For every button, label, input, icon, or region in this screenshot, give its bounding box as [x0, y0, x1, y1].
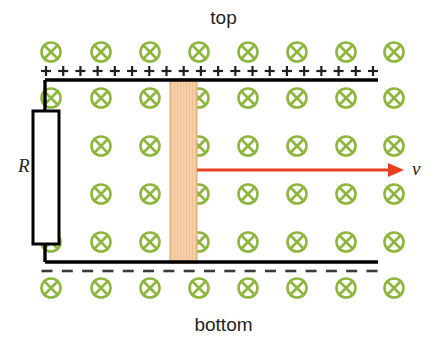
positive-charge-sign: [351, 66, 361, 76]
resistor-label: R: [18, 155, 30, 177]
bottom-rail-label: bottom: [0, 314, 447, 336]
magnetic-field-into-page-icon: [141, 89, 160, 108]
sliding-conducting-rod: [170, 79, 197, 263]
magnetic-field-into-page-icon: [92, 279, 111, 298]
magnetic-field-into-page-icon: [337, 279, 356, 298]
magnetic-field-into-page-icon: [42, 279, 61, 298]
arrow-head-icon: [388, 163, 404, 177]
positive-charge-sign: [144, 66, 154, 76]
magnetic-field-into-page-icon: [141, 279, 160, 298]
magnetic-field-into-page-icon: [385, 89, 404, 108]
magnetic-field-into-page-icon: [385, 43, 404, 62]
velocity-arrow: [197, 163, 404, 177]
magnetic-field-into-page-icon: [239, 279, 258, 298]
magnetic-field-into-page-icon: [92, 89, 111, 108]
top-rail-label: top: [0, 7, 447, 29]
magnetic-field-into-page-icon: [239, 233, 258, 252]
positive-charge-sign: [248, 66, 258, 76]
magnetic-field-into-page-icon: [239, 43, 258, 62]
magnetic-field-into-page-icon: [141, 43, 160, 62]
magnetic-field-into-page-icon: [190, 279, 209, 298]
positive-charge-sign: [299, 66, 309, 76]
magnetic-field-into-page-icon: [337, 137, 356, 156]
magnetic-field-into-page-icon: [337, 185, 356, 204]
magnetic-field-into-page-icon: [288, 43, 307, 62]
faraday-law-sliding-rod-diagram: top bottom R v: [0, 0, 447, 343]
positive-charge-sign: [368, 66, 378, 76]
magnetic-field-into-page-icon: [141, 233, 160, 252]
resistor-body: [33, 111, 59, 244]
magnetic-field-into-page-icon: [92, 137, 111, 156]
positive-charge-sign: [41, 66, 51, 76]
magnetic-field-into-page-icon: [288, 185, 307, 204]
positive-charge-sign: [334, 66, 344, 76]
magnetic-field-into-page-icon: [42, 43, 61, 62]
positive-charge-sign: [196, 66, 206, 76]
magnetic-field-into-page-icon: [141, 137, 160, 156]
magnetic-field-into-page-icon: [190, 43, 209, 62]
positive-charge-sign: [179, 66, 189, 76]
magnetic-field-into-page-icon: [337, 233, 356, 252]
positive-charge-sign: [127, 66, 137, 76]
positive-charge-sign: [213, 66, 223, 76]
positive-charge-sign: [75, 66, 85, 76]
magnetic-field-into-page-icon: [288, 279, 307, 298]
magnetic-field-into-page-icon: [385, 233, 404, 252]
magnetic-field-into-page-icon: [239, 137, 258, 156]
magnetic-field-into-page-icon: [337, 43, 356, 62]
magnetic-field-into-page-icon: [288, 137, 307, 156]
magnetic-field-into-page-icon: [92, 233, 111, 252]
positive-charge-sign: [316, 66, 326, 76]
magnetic-field-into-page-icon: [385, 185, 404, 204]
positive-charge-sign: [265, 66, 275, 76]
positive-charge-sign: [230, 66, 240, 76]
magnetic-field-into-page-icon: [239, 89, 258, 108]
diagram-canvas: [0, 0, 447, 343]
velocity-label: v: [412, 158, 420, 180]
magnetic-field-into-page-icon: [385, 137, 404, 156]
magnetic-field-into-page-icon: [385, 279, 404, 298]
positive-charge-sign: [58, 66, 68, 76]
magnetic-field-into-page-icon: [239, 185, 258, 204]
positive-charge-sign: [93, 66, 103, 76]
magnetic-field-into-page-icon: [92, 43, 111, 62]
magnetic-field-into-page-icon: [288, 233, 307, 252]
magnetic-field-into-page-icon: [141, 185, 160, 204]
positive-charge-sign: [110, 66, 120, 76]
magnetic-field-into-page-icon: [288, 89, 307, 108]
magnetic-field-into-page-icon: [92, 185, 111, 204]
magnetic-field-into-page-icon: [337, 89, 356, 108]
positive-charge-sign: [161, 66, 171, 76]
positive-charge-sign: [282, 66, 292, 76]
